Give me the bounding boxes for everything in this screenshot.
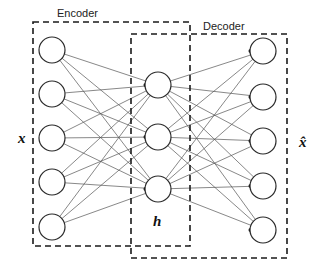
connection-edge (65, 137, 145, 138)
input-node-4 (39, 169, 65, 195)
connection-edge (170, 55, 250, 81)
output-node-1 (250, 38, 276, 64)
input-node-1 (39, 37, 65, 63)
decoder-label: Decoder (203, 20, 245, 32)
input-node-3 (39, 125, 65, 151)
connection-edge (167, 94, 253, 177)
input-label: x (17, 130, 26, 146)
connection-edge (170, 194, 251, 226)
output-node-5 (250, 217, 276, 243)
connection-edge (170, 146, 251, 183)
connection-edge (169, 91, 251, 135)
autoencoder-diagram: Encoder Decoder x h x̂ (0, 0, 325, 267)
connection-edge (62, 58, 148, 129)
connection-edge (64, 91, 147, 132)
connection-edge (170, 142, 251, 180)
output-node-2 (250, 84, 276, 110)
connection-edge (64, 144, 147, 184)
encoder-label: Encoder (57, 7, 98, 19)
connection-edge (65, 86, 145, 93)
connection-edge (171, 186, 250, 188)
connection-edge (62, 103, 149, 181)
hidden-label: h (153, 213, 161, 229)
connection-edge (62, 94, 149, 173)
hidden-node-1 (145, 72, 171, 98)
connection-edge (168, 59, 253, 129)
output-node-3 (250, 128, 276, 154)
connection-edge (64, 54, 145, 81)
hidden-node-2 (145, 124, 171, 150)
input-node-5 (39, 214, 65, 240)
connection-edge (64, 193, 146, 222)
connection-edge (166, 96, 256, 220)
connection-edge (171, 137, 250, 140)
connection-edge (65, 183, 145, 188)
output-label: x̂ (298, 134, 307, 150)
hidden-node-3 (145, 176, 171, 202)
output-node-4 (250, 173, 276, 199)
input-node-2 (39, 81, 65, 107)
